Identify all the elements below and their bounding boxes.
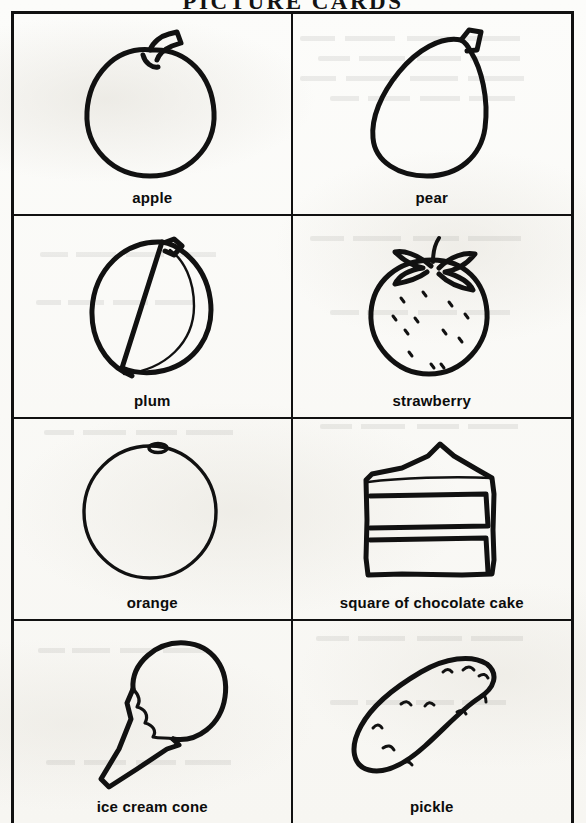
orange-icon	[14, 419, 291, 595]
picture-card-ice-cream-cone[interactable]: ice cream cone	[14, 621, 293, 823]
picture-card-grid: apple pear plum	[11, 11, 574, 823]
picture-card-orange[interactable]: orange	[14, 419, 293, 621]
apple-icon	[14, 14, 291, 190]
card-label: strawberry	[392, 393, 471, 417]
pickle-icon	[293, 621, 572, 799]
card-label: apple	[132, 190, 172, 214]
picture-card-strawberry[interactable]: strawberry	[293, 216, 572, 418]
plum-icon	[14, 216, 291, 392]
card-label: pear	[416, 190, 449, 214]
picture-card-apple[interactable]: apple	[14, 14, 293, 216]
picture-card-pear[interactable]: pear	[293, 14, 572, 216]
cake-slice-icon	[293, 419, 572, 595]
strawberry-icon	[293, 216, 572, 392]
picture-card-pickle[interactable]: pickle	[293, 621, 572, 823]
card-label: ice cream cone	[97, 799, 208, 823]
pear-icon	[293, 14, 572, 190]
card-label: square of chocolate cake	[340, 595, 524, 619]
card-label: plum	[134, 393, 171, 417]
picture-card-cake[interactable]: square of chocolate cake	[293, 419, 572, 621]
card-label: pickle	[410, 799, 454, 823]
ice-cream-cone-icon	[14, 621, 291, 799]
card-label: orange	[127, 595, 178, 619]
picture-card-plum[interactable]: plum	[14, 216, 293, 418]
